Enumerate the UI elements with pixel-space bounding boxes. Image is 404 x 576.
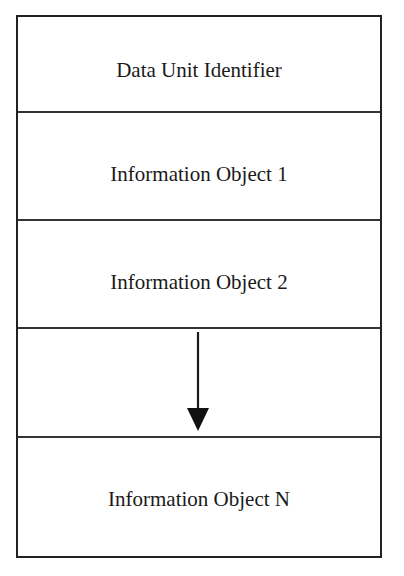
arrow-down-icon bbox=[0, 0, 404, 576]
